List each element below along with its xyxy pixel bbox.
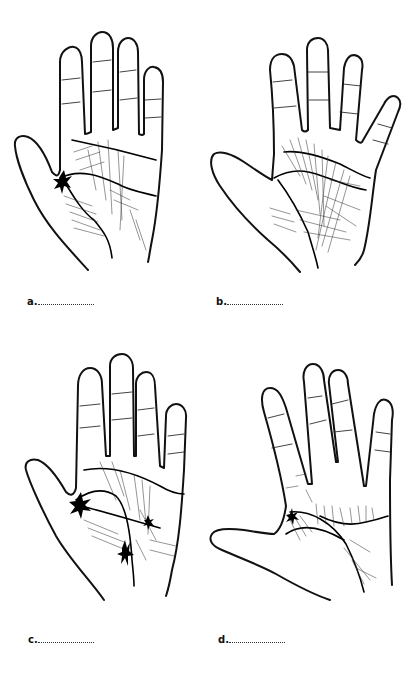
answer-blank-d — [229, 641, 285, 643]
panel-letter-a: a. — [27, 296, 38, 307]
answer-blank-c — [38, 641, 94, 643]
palm-illustrations — [0, 0, 420, 678]
answer-blank-a — [38, 303, 94, 305]
panel-letter-b: b. — [216, 296, 227, 307]
panel-letter-d: d. — [218, 634, 229, 645]
panel-label-c: c. — [28, 634, 94, 645]
panel-label-b: b. — [216, 296, 283, 307]
hand-c-drawing — [26, 354, 187, 600]
panel-letter-c: c. — [28, 634, 38, 645]
hand-a-drawing — [15, 32, 163, 270]
answer-blank-b — [227, 303, 283, 305]
panel-label-d: d. — [218, 634, 285, 645]
panel-label-a: a. — [27, 296, 94, 307]
hand-d-drawing — [210, 364, 392, 600]
hand-b-drawing — [211, 38, 400, 272]
